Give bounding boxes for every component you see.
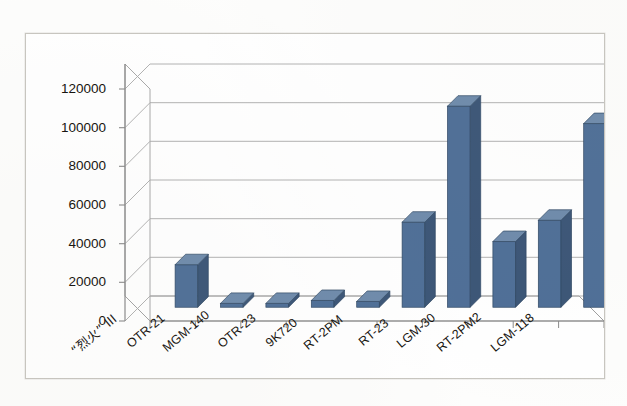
bar-side-face [470, 96, 481, 308]
y-tick-label: 120000 [34, 82, 106, 96]
figure-frame: 120000 100000 80000 60000 40000 20000 0 … [25, 33, 605, 379]
bar-front-face [175, 265, 198, 308]
bar-front-face [538, 220, 561, 307]
y-tick-label: 60000 [34, 198, 106, 212]
x-axis-ticks [150, 321, 604, 328]
y-tick-label: 20000 [34, 275, 106, 289]
bar-front-face [493, 242, 516, 308]
y-tick-label: 0 [34, 314, 106, 328]
bar-side-face [425, 212, 436, 308]
scanned-page: 120000 100000 80000 60000 40000 20000 0 … [0, 0, 627, 406]
bar-side-face [516, 231, 527, 307]
bar-front-face [448, 106, 471, 307]
y-axis-ticks [119, 89, 125, 321]
bar-front-face [357, 301, 380, 307]
bar-side-face [561, 210, 572, 308]
bar-front-face [402, 222, 425, 307]
bar-front-face [311, 300, 334, 307]
bar-front-face [221, 303, 244, 307]
bar-front-face [266, 303, 289, 307]
y-tick-label: 100000 [34, 121, 106, 135]
bar-front-face [584, 124, 604, 308]
chart-canvas [26, 34, 604, 378]
y-axis-labels: 120000 100000 80000 60000 40000 20000 0 [26, 34, 106, 378]
bar-chart: 120000 100000 80000 60000 40000 20000 0 … [26, 34, 604, 378]
y-tick-label: 40000 [34, 237, 106, 251]
bar-top-face [584, 113, 604, 124]
y-tick-label: 80000 [34, 159, 106, 173]
